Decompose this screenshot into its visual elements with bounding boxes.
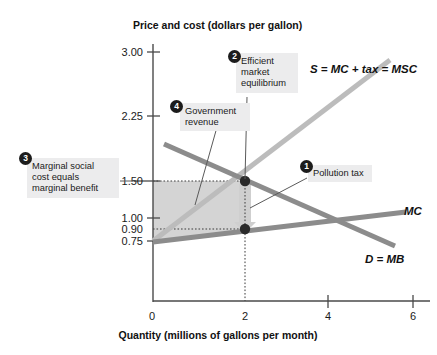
- marginal-cost-marker: [240, 224, 250, 234]
- callout-badge-4: 4: [170, 100, 183, 113]
- x-tick-label-2: 2: [242, 310, 248, 322]
- y-axis-title: Price and cost (dollars per gallon): [133, 19, 302, 31]
- x-tick-label-4: 4: [325, 310, 331, 322]
- callout-efficient-equilibrium: Efficient market equilibrium: [236, 53, 298, 93]
- curve-label-mc: MC: [404, 205, 423, 217]
- callout-pollution-tax: Pollution tax: [308, 165, 372, 182]
- curve-label-demand: D = MB: [365, 253, 404, 265]
- callout-badge-1: 1: [300, 160, 313, 173]
- y-tick-label-225: 2.25: [122, 110, 143, 122]
- y-tick-label-075: 0.75: [122, 235, 143, 247]
- callout-marginal-social-cost: Marginal social cost equals marginal ben…: [27, 158, 119, 198]
- x-tick-label-0: 0: [149, 310, 155, 322]
- y-tick-label-090: 0.90: [122, 223, 143, 235]
- x-axis-title: Quantity (millions of gallons per month): [119, 329, 318, 341]
- x-tick-label-6: 6: [410, 310, 416, 322]
- callout-government-revenue: Government revenue: [180, 103, 250, 131]
- callout-badge-3: 3: [19, 152, 32, 165]
- callout-badge-2: 2: [228, 50, 241, 63]
- curve-label-supply: S = MC + tax = MSC: [310, 63, 418, 75]
- y-tick-label-300: 3.00: [122, 46, 143, 58]
- chart-figure: 3.00 2.25 1.50 1.00 0.90 0.75 0 2 4 6 S …: [0, 0, 437, 355]
